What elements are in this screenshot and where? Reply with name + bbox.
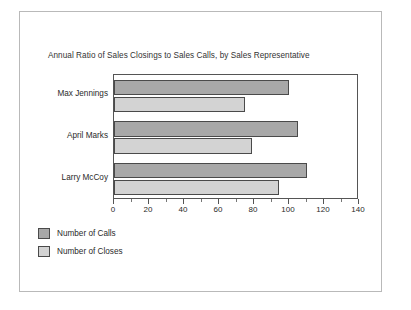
legend-label-closes: Number of Closes [57,247,123,256]
legend-swatch-calls [38,228,50,239]
x-tick-label-20: 20 [144,205,153,214]
bar-april-marks-number-of-calls [114,121,298,137]
category-axis-labels: Max JenningsApril MarksLarry McCoy [20,74,108,199]
legend-item-closes: Number of Closes [38,244,123,259]
bar-larry-mccoy-number-of-calls [114,163,307,179]
x-tick-major-120 [323,199,324,204]
x-tick-minor-10 [131,199,132,202]
legend-label-calls: Number of Calls [57,229,116,238]
chart-title: Annual Ratio of Sales Closings to Sales … [48,51,368,60]
x-tick-major-0 [113,199,114,204]
x-tick-label-140: 140 [351,205,364,214]
x-tick-minor-130 [341,199,342,202]
bar-max-jennings-number-of-closes [114,97,245,113]
chart-page: Annual Ratio of Sales Closings to Sales … [0,0,411,310]
x-tick-label-100: 100 [281,205,294,214]
x-tick-label-40: 40 [179,205,188,214]
legend-item-calls: Number of Calls [38,226,123,241]
chart-legend: Number of CallsNumber of Closes [38,226,123,262]
bars-container [114,75,357,198]
x-tick-minor-30 [166,199,167,202]
legend-swatch-closes [38,246,50,257]
x-tick-minor-70 [236,199,237,202]
x-tick-label-80: 80 [249,205,258,214]
bar-april-marks-number-of-closes [114,138,252,154]
x-tick-minor-50 [201,199,202,202]
x-tick-major-40 [183,199,184,204]
category-label-april-marks: April Marks [67,131,108,140]
x-tick-minor-110 [306,199,307,202]
x-tick-label-60: 60 [214,205,223,214]
x-tick-major-80 [253,199,254,204]
value-axis: 020406080100120140 [113,199,358,221]
category-label-max-jennings: Max Jennings [57,89,108,98]
x-tick-major-60 [218,199,219,204]
x-tick-major-140 [358,199,359,204]
x-tick-label-0: 0 [111,205,115,214]
x-tick-label-120: 120 [316,205,329,214]
bar-larry-mccoy-number-of-closes [114,180,279,196]
category-label-larry-mccoy: Larry McCoy [62,173,108,182]
bar-max-jennings-number-of-calls [114,80,289,96]
x-tick-major-20 [148,199,149,204]
plot-area [113,74,358,199]
x-tick-minor-90 [271,199,272,202]
x-tick-major-100 [288,199,289,204]
